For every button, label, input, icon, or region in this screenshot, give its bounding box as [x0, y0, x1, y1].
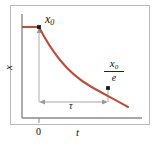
x-tick-label-zero: 0	[36, 126, 41, 137]
label-time-constant: τ	[69, 100, 73, 111]
tau-arrowhead-left-icon	[39, 99, 45, 104]
label-decay-numerator-subscript: 0	[115, 63, 119, 71]
label-initial-value-subscript: 0	[50, 18, 54, 27]
marker-x0-over-e	[106, 86, 110, 90]
tau-arrowhead-right-icon	[102, 99, 108, 104]
label-decay-numerator: x0	[104, 58, 124, 71]
label-initial-value: x0	[45, 13, 54, 27]
label-decay-denominator: e	[104, 72, 124, 83]
label-decay-value: x0 e	[104, 58, 124, 83]
marker-x0	[37, 25, 41, 29]
plot-canvas	[0, 0, 160, 147]
figure-exponential-decay: x0 x0 e τ x t 0	[0, 0, 160, 147]
x-axis-label: t	[76, 127, 79, 138]
y-axis-label: x	[3, 65, 14, 70]
